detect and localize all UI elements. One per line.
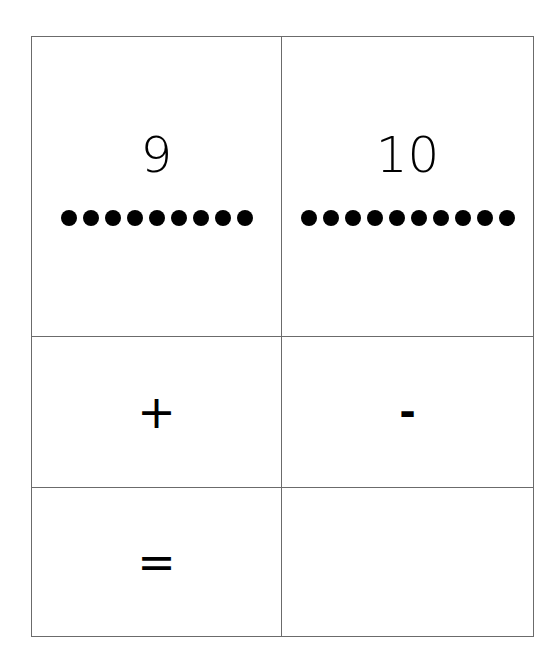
count-dot [83, 210, 99, 226]
card-blank [282, 488, 533, 636]
count-dot [433, 210, 449, 226]
count-dot [477, 210, 493, 226]
card-number: 10 [376, 130, 440, 180]
equals-symbol: = [137, 539, 176, 585]
count-dot [171, 210, 187, 226]
count-dot [149, 210, 165, 226]
count-dot [323, 210, 339, 226]
count-dot [61, 210, 77, 226]
card-nine: 9 [32, 37, 281, 336]
plus-symbol: + [137, 389, 176, 435]
count-dot [389, 210, 405, 226]
card-ten: 10 [282, 37, 533, 336]
flashcard-grid: 9 10 + - = [31, 36, 534, 637]
minus-symbol: - [399, 389, 416, 435]
count-dot [345, 210, 361, 226]
count-dot [455, 210, 471, 226]
card-equals: = [32, 488, 281, 636]
dot-row [61, 210, 253, 226]
count-dot [301, 210, 317, 226]
count-dot [127, 210, 143, 226]
count-dot [499, 210, 515, 226]
count-dot [237, 210, 253, 226]
count-dot [215, 210, 231, 226]
card-number: 9 [141, 130, 173, 180]
dot-row [301, 210, 515, 226]
count-dot [367, 210, 383, 226]
count-dot [193, 210, 209, 226]
count-dot [411, 210, 427, 226]
card-minus: - [282, 337, 533, 487]
card-plus: + [32, 337, 281, 487]
count-dot [105, 210, 121, 226]
